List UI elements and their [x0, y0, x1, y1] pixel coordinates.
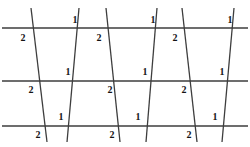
angle-label: 1 [143, 67, 148, 77]
diagram-canvas [0, 0, 250, 147]
angle-label: 2 [36, 130, 41, 140]
angle-label: 1 [213, 112, 218, 122]
angle-label: 2 [182, 85, 187, 95]
geometry-diagram: Parallel lines cut by transversals with … [0, 0, 250, 147]
angle-label: 2 [173, 33, 178, 43]
angle-label: 1 [151, 15, 156, 25]
angle-label: 2 [108, 85, 113, 95]
angle-label: 1 [73, 15, 78, 25]
angle-label: 1 [220, 67, 225, 77]
angle-label: 2 [187, 130, 192, 140]
angle-label: 1 [136, 112, 141, 122]
angle-label: 1 [59, 112, 64, 122]
angle-label: 2 [97, 33, 102, 43]
angle-label: 2 [29, 85, 34, 95]
angle-label: 1 [66, 67, 71, 77]
angle-label: 1 [228, 15, 233, 25]
angle-label: 2 [110, 130, 115, 140]
angle-label: 2 [21, 33, 26, 43]
